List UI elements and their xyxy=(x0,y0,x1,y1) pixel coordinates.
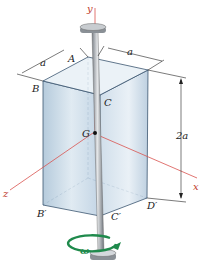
rotation-arrow-icon xyxy=(68,235,116,251)
point-label-c-prime: C′ xyxy=(111,211,122,222)
point-label-d-prime: D′ xyxy=(146,200,158,211)
y-axis-label: y xyxy=(86,3,93,14)
omega-label: ω xyxy=(80,245,90,256)
dimension-label-left-a: a xyxy=(40,57,46,68)
dimension-label-height: 2a xyxy=(175,130,188,141)
point-label-g: G xyxy=(82,128,90,139)
x-axis-label: x xyxy=(193,181,199,192)
dimension-label-right-a: a xyxy=(127,46,133,57)
diagram-canvas: y x z A B C G B′ C′ D′ a a 2a ω xyxy=(0,0,203,269)
point-label-c: C xyxy=(104,97,112,108)
dim-arrow-icon xyxy=(179,193,183,199)
z-axis-label: z xyxy=(2,188,9,199)
mass-center-point xyxy=(93,131,97,135)
point-label-a: A xyxy=(67,53,75,64)
box-side-face xyxy=(100,70,148,216)
point-label-b: B xyxy=(31,83,39,94)
rod-top-cap xyxy=(80,24,106,34)
point-label-b-prime: B′ xyxy=(36,208,47,219)
box-front-face xyxy=(43,81,100,216)
dim-arrow-icon xyxy=(179,78,183,84)
